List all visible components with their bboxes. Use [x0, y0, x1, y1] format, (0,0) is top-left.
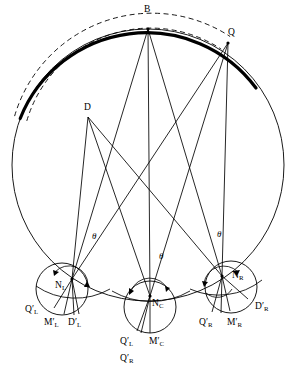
angle-arrowheads: [53, 270, 240, 295]
ray-Q-to-NR: [222, 43, 228, 276]
label-node-NL: NL: [55, 281, 66, 291]
label-theta-center: θ: [159, 252, 163, 261]
label-ray-DR-right-sub: R: [264, 305, 269, 312]
label-theta-right: θ: [217, 230, 221, 239]
label-ray-QR-right: Q′R: [199, 318, 213, 328]
label-ray-ML-left-sub: L: [55, 321, 59, 328]
ray-D-to-NC: [88, 117, 150, 296]
label-ray-MC-center: M′C: [149, 337, 164, 347]
label-ray-QR-center: Q′R: [120, 354, 134, 364]
label-ray-QR-center-sub: R: [129, 357, 134, 364]
dot-NL: [70, 277, 73, 280]
label-Q: Q: [228, 28, 235, 38]
dashed-outer-arc: [15, 13, 231, 116]
label-ray-DL-left-sub: L: [77, 321, 81, 328]
angle-arc-right-b: [206, 289, 232, 297]
dot-B: [146, 27, 149, 30]
label-ray-DR-right: D′R: [255, 302, 269, 312]
label-node-NC-sub: C: [159, 302, 164, 309]
label-B: B: [144, 5, 150, 15]
ray-D-to-NL: [72, 117, 88, 279]
ray-B-to-NL: [72, 29, 148, 279]
label-ray-MR-right: M′R: [227, 318, 242, 328]
label-ray-QR-right-sub: R: [208, 321, 213, 328]
label-node-NC: NC: [152, 299, 163, 309]
arrowhead-left-2: [84, 281, 90, 287]
bold-arc: [20, 33, 256, 119]
label-node-NR-sub: R: [239, 274, 244, 281]
ray-D-to-NR: [88, 117, 222, 276]
geometric-diagram: B Q D NL NC NR Q′L M′L D′L Q′L M′C Q′R Q…: [0, 0, 292, 375]
dot-NR: [220, 274, 223, 277]
normal-right: [221, 276, 222, 313]
rays-from-B: [72, 29, 222, 296]
ray-B-to-NR: [148, 29, 222, 276]
label-D: D: [84, 103, 91, 113]
label-node-NR: NR: [232, 271, 243, 281]
label-node-NL-sub: L: [62, 284, 66, 291]
label-ray-QL-center: Q′L: [120, 337, 133, 347]
label-theta-left: θ: [92, 232, 96, 241]
label-ray-QL-left-sub: L: [34, 308, 38, 315]
label-ray-QL-left: Q′L: [25, 305, 38, 315]
dot-Q: [226, 41, 229, 44]
label-ray-QL-center-sub: L: [129, 340, 133, 347]
label-ray-DL-left: D′L: [68, 318, 81, 328]
rays-from-D: [72, 117, 222, 296]
label-ray-MC-center-sub: C: [160, 340, 165, 347]
label-ray-ML-left: M′L: [44, 318, 59, 328]
label-ray-MR-right-sub: R: [238, 321, 243, 328]
node-circle-right: [205, 261, 257, 313]
leg-right-QR: [212, 276, 222, 312]
